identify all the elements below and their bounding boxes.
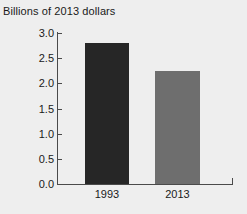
y-label-text: 3.0 bbox=[24, 28, 54, 39]
y-label-text: 0.0 bbox=[24, 179, 54, 190]
y-label-1.5: 1.5 bbox=[20, 104, 54, 115]
y-label-1.0: 1.0 bbox=[20, 129, 54, 140]
y-label-0.0: 0.0 bbox=[20, 179, 54, 190]
x-label-1993: 1993 bbox=[87, 188, 127, 200]
bar-chart: Billions of 2013 dollars 0.00.51.01.52.0… bbox=[0, 0, 247, 214]
y-label-text: 2.5 bbox=[24, 53, 54, 64]
y-label-2.0: 2.0 bbox=[20, 78, 54, 89]
y-label-text: 1.0 bbox=[24, 129, 54, 140]
bar-1993 bbox=[85, 43, 129, 184]
y-label-0.5: 0.5 bbox=[20, 154, 54, 165]
y-label-3.0: 3.0 bbox=[20, 28, 54, 39]
y-tick-0.0 bbox=[58, 184, 62, 185]
y-label-text: 1.5 bbox=[24, 104, 54, 115]
x-label-2013: 2013 bbox=[158, 188, 198, 200]
chart-title: Billions of 2013 dollars bbox=[3, 5, 115, 18]
x-axis-end-tick bbox=[232, 178, 233, 185]
bar-2013 bbox=[155, 71, 200, 184]
plot-area bbox=[57, 33, 232, 184]
y-label-text: 0.5 bbox=[24, 154, 54, 165]
x-axis-line bbox=[57, 184, 233, 185]
y-label-text: 2.0 bbox=[24, 78, 54, 89]
y-label-2.5: 2.5 bbox=[20, 53, 54, 64]
